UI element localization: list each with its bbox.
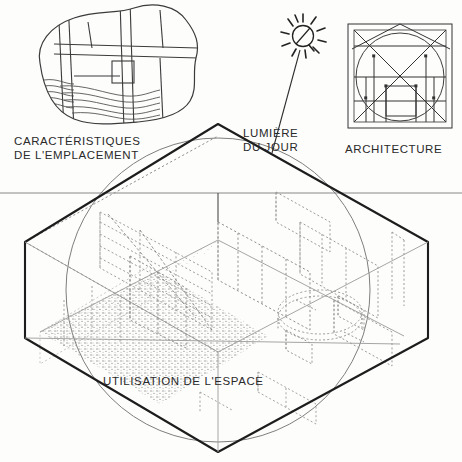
isometric-room-volume — [25, 124, 428, 452]
round-table-icon — [278, 290, 364, 364]
site-plan-blob-icon — [39, 0, 200, 130]
architecture-diagram-sheet: CARACTÉRISTIQUES DE L'EMPLACEMENT LUMIÈR… — [0, 0, 462, 462]
label-daylight: LUMIÈRE DU JOUR — [243, 126, 298, 154]
label-architecture: ARCHITECTURE — [345, 142, 442, 156]
label-space-utilisation: UTILISATION DE L'ESPACE — [103, 374, 264, 388]
diagram-linework — [0, 0, 462, 462]
label-site-characteristics: CARACTÉRISTIQUES DE L'EMPLACEMENT — [14, 134, 141, 162]
sun-icon — [281, 14, 326, 58]
architecture-proportion-diagram-icon — [348, 24, 452, 128]
